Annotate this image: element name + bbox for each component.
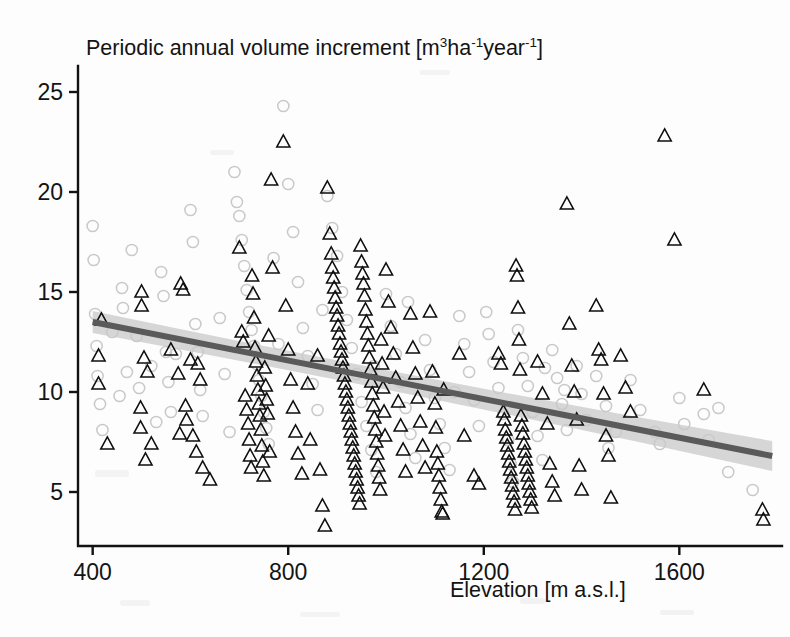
data-point-triangle <box>134 401 147 413</box>
data-point-triangle <box>418 461 431 473</box>
data-point-triangle <box>423 305 436 317</box>
data-point-triangle <box>560 197 573 209</box>
data-point-triangle <box>458 429 471 441</box>
y-axis-title-main3: year <box>483 36 525 60</box>
data-point-triangle <box>392 395 405 407</box>
y-tick-label: 10 <box>37 379 63 405</box>
data-point-circle <box>116 282 127 293</box>
data-point-triangle <box>360 315 373 327</box>
data-point-triangle <box>536 387 549 399</box>
data-point-triangle <box>240 403 253 415</box>
data-point-triangle <box>363 351 376 363</box>
data-point-triangle <box>358 289 371 301</box>
data-point-triangle <box>604 491 617 503</box>
data-point-circle <box>483 328 494 339</box>
data-point-triangle <box>492 347 505 359</box>
data-point-circle <box>532 430 543 441</box>
data-point-circle <box>713 402 724 413</box>
data-point-circle <box>114 390 125 401</box>
data-point-circle <box>94 398 105 409</box>
data-point-circle <box>420 334 431 345</box>
data-point-triangle <box>453 347 466 359</box>
data-point-triangle <box>180 413 193 425</box>
data-point-triangle <box>361 327 374 339</box>
y-axis-title-main4: ] <box>537 36 543 60</box>
data-point-triangle <box>313 463 326 475</box>
data-point-circle <box>246 324 257 335</box>
y-axis-title-sup3: -1 <box>525 35 537 50</box>
data-point-triangle <box>382 295 395 307</box>
data-point-circle <box>559 384 570 395</box>
data-point-circle <box>288 226 299 237</box>
data-point-triangle <box>396 443 409 455</box>
data-point-triangle <box>374 483 387 495</box>
data-point-triangle <box>394 419 407 431</box>
data-point-circle <box>158 290 169 301</box>
data-point-triangle <box>372 459 385 471</box>
data-point-circle <box>517 352 528 363</box>
data-point-circle <box>481 306 492 317</box>
data-point-triangle <box>173 427 186 439</box>
chart-figure: Periodic annual volume increment [m3ha-1… <box>0 0 790 637</box>
data-point-circle <box>600 400 611 411</box>
data-point-circle <box>635 404 646 415</box>
data-point-circle <box>312 404 323 415</box>
y-tick-label: 20 <box>37 179 63 205</box>
data-point-circle <box>229 166 240 177</box>
data-point-triangle <box>101 437 114 449</box>
data-point-triangle <box>304 433 317 445</box>
data-point-circle <box>292 276 303 287</box>
data-point-circle <box>317 304 328 315</box>
data-point-circle <box>151 416 162 427</box>
data-point-circle <box>674 392 685 403</box>
data-point-triangle <box>135 285 148 297</box>
data-point-triangle <box>242 417 255 429</box>
data-point-triangle <box>511 301 524 313</box>
data-point-triangle <box>203 473 216 485</box>
data-point-triangle <box>239 389 252 401</box>
data-point-triangle <box>592 343 605 355</box>
data-point-triangle <box>548 489 561 501</box>
data-point-triangle <box>563 317 576 329</box>
data-point-triangle <box>431 457 444 469</box>
data-point-triangle <box>416 439 429 451</box>
data-point-circle <box>197 410 208 421</box>
data-point-triangle <box>435 505 448 517</box>
data-point-circle <box>231 196 242 207</box>
data-point-triangle <box>321 181 334 193</box>
data-point-circle <box>591 370 602 381</box>
data-point-circle <box>723 466 734 477</box>
x-tick-label: 800 <box>269 559 307 585</box>
data-point-circle <box>234 210 245 221</box>
y-tick-label: 15 <box>37 279 63 305</box>
data-point-circle <box>187 236 198 247</box>
y-axis-title: Periodic annual volume increment [m3ha-1… <box>86 35 543 60</box>
data-point-circle <box>464 366 475 377</box>
data-point-triangle <box>433 481 446 493</box>
data-point-triangle <box>279 299 292 311</box>
data-point-triangle <box>590 299 603 311</box>
data-point-circle <box>547 344 558 355</box>
data-point-triangle <box>359 303 372 315</box>
data-point-circle <box>239 260 250 271</box>
data-point-circle <box>539 362 550 373</box>
data-point-triangle <box>597 387 610 399</box>
data-point-circle <box>224 426 235 437</box>
x-axis-title: Elevation [m a.s.l.] <box>450 578 626 602</box>
data-point-triangle <box>355 255 368 267</box>
data-point-triangle <box>145 437 158 449</box>
data-point-circle <box>332 250 343 261</box>
data-point-triangle <box>264 173 277 185</box>
data-point-triangle <box>262 329 275 341</box>
scatter-plot-canvas: Periodic annual volume increment [m3ha-1… <box>0 0 790 637</box>
data-point-triangle <box>434 493 447 505</box>
data-point-circle <box>283 178 294 189</box>
data-point-circle <box>444 464 455 475</box>
y-axis-title-sup1: 3 <box>440 35 448 50</box>
data-point-triangle <box>179 399 192 411</box>
data-point-circle <box>219 368 230 379</box>
data-point-circle <box>552 372 563 383</box>
data-point-triangle <box>406 341 419 353</box>
data-point-triangle <box>289 425 302 437</box>
data-point-triangle <box>233 241 246 253</box>
